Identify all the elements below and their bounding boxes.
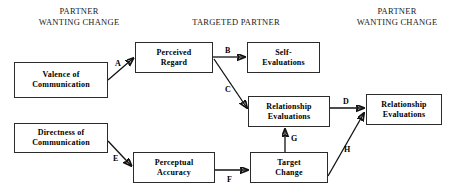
- edge-label-a: A: [115, 60, 121, 68]
- node-directness-of-communication[interactable]: Directness of Communication: [14, 123, 108, 153]
- node-relationship-evaluations-actor[interactable]: Relationship Evaluations: [366, 94, 442, 125]
- edge-label-c: C: [225, 86, 231, 94]
- node-perceptual-accuracy[interactable]: Perceptual Accuracy: [133, 152, 215, 183]
- node-target-change[interactable]: Target Change: [250, 152, 328, 183]
- node-perceived-regard[interactable]: Perceived Regard: [135, 42, 213, 73]
- node-valence-of-communication[interactable]: Valence of Communication: [14, 62, 108, 98]
- node-self-evaluations[interactable]: Self- Evaluations: [247, 42, 320, 73]
- edge-label-g: G: [291, 135, 297, 143]
- edge-label-b: B: [225, 47, 230, 55]
- node-relationship-evaluations-target[interactable]: Relationship Evaluations: [248, 96, 330, 127]
- edge-line-e: [108, 141, 132, 166]
- edge-label-d: D: [343, 98, 349, 106]
- edge-label-e: E: [113, 155, 118, 163]
- edge-label-f: F: [227, 176, 232, 184]
- edge-label-h: H: [344, 146, 350, 154]
- edge-line-c: [214, 59, 247, 108]
- diagram-canvas: PARTNER WANTING CHANGE TARGETED PARTNER …: [0, 0, 457, 193]
